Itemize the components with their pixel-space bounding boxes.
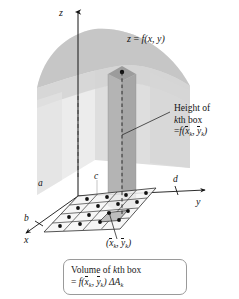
bound-label-b: b <box>24 213 29 224</box>
surface-equation: z = f(x, y) <box>127 33 165 45</box>
sample-dot-kth <box>107 211 111 215</box>
volume-line2-sub3: k <box>120 281 123 288</box>
height-callout-thbox: th box <box>178 115 202 125</box>
x-axis-label: x <box>24 234 28 246</box>
sample-point-close: ) <box>128 238 131 248</box>
sample-dot <box>135 200 139 204</box>
volume-line1-post: th box <box>117 265 141 275</box>
y-axis-tick-d <box>175 186 178 195</box>
sample-dot <box>116 202 120 206</box>
sample-dot <box>76 206 80 210</box>
height-callout-xbar: x <box>185 126 189 138</box>
sample-dot <box>144 191 148 195</box>
volume-callout-line2: = f(xk, yk) ΔAk <box>71 276 179 289</box>
double-integral-figure: z y x a b c d z = f(x, y) Height of kth … <box>0 0 239 299</box>
sample-dot <box>67 215 71 219</box>
height-callout-line1: Height of <box>174 103 210 115</box>
sample-dot <box>58 224 62 228</box>
volume-callout-box: Volume of kth box = f(xk, yk) ΔAk <box>63 259 187 295</box>
sample-dot <box>78 222 82 226</box>
volume-line2-delta: ΔA <box>109 277 120 287</box>
surface-equation-f: f(x, y) <box>142 33 165 44</box>
sample-dot <box>124 193 128 197</box>
volume-callout-line1: Volume of kth box <box>71 264 179 276</box>
height-callout: Height of kth box =f(xk, yk) <box>174 103 210 138</box>
figure-canvas <box>0 0 239 299</box>
volume-line2-eq: = <box>71 277 79 287</box>
sample-point-ybar: y <box>121 238 125 249</box>
sample-dot <box>87 213 91 217</box>
bound-label-a: a <box>38 178 43 189</box>
sample-point-xbar: x <box>109 238 113 249</box>
volume-line2-ybar: y <box>96 276 100 288</box>
sample-dot <box>96 204 100 208</box>
height-callout-close: ) <box>204 126 207 136</box>
height-callout-line2: kth box <box>174 115 210 127</box>
surface-equation-eq: = <box>133 33 139 44</box>
bound-label-d: d <box>173 174 178 185</box>
z-axis-label: z <box>59 7 63 19</box>
sample-dot <box>117 218 121 222</box>
y-axis-label: y <box>196 196 200 208</box>
volume-line2-xbar: x <box>85 276 89 288</box>
sample-dot <box>85 197 89 201</box>
sample-dot <box>126 209 130 213</box>
height-callout-line3: =f(xk, yk) <box>174 126 210 138</box>
sample-dot <box>105 195 109 199</box>
sample-point-label: (xk, yk) <box>106 238 131 249</box>
height-callout-ybar: y <box>197 126 201 138</box>
sample-dot <box>98 220 102 224</box>
surface-equation-z: z <box>127 33 131 44</box>
bound-label-c: c <box>94 171 98 182</box>
volume-line1-pre: Volume of <box>71 265 113 275</box>
